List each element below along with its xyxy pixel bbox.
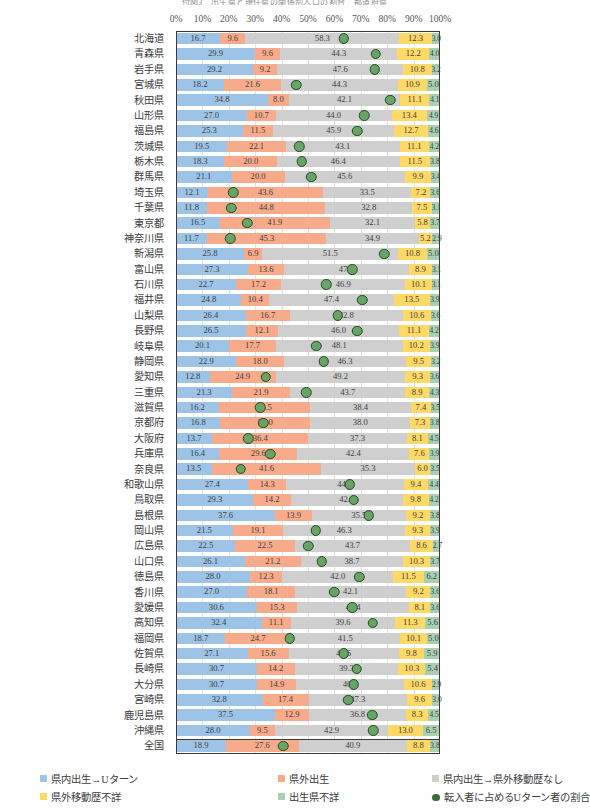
- legend-label: 県内出生→Uターン: [51, 774, 138, 785]
- x-axis-tick-10: 10%: [194, 14, 211, 24]
- row-label-山形県: 山形県: [0, 108, 170, 123]
- row-label-福岡県: 福岡県: [0, 631, 170, 646]
- x-axis-tick-100: 100%: [429, 14, 451, 24]
- row-label-岡山県: 岡山県: [0, 523, 170, 538]
- legend-item-1[interactable]: 県外出生: [278, 773, 329, 786]
- row-label-徳島県: 徳島県: [0, 569, 170, 584]
- legend-item-2[interactable]: 県内出生→県外移動歴なし: [432, 773, 563, 786]
- row-label-秋田県: 秋田県: [0, 93, 170, 108]
- row-label-宮城県: 宮城県: [0, 77, 170, 92]
- legend-square-swatch-icon: [40, 793, 47, 800]
- row-label-富山県: 富山県: [0, 262, 170, 277]
- row-label-福井県: 福井県: [0, 292, 170, 307]
- x-axis-tick-labels: 0%10%20%30%40%50%60%70%80%90%100%: [0, 14, 569, 28]
- row-label-石川県: 石川県: [0, 277, 170, 292]
- legend-item-0[interactable]: 県内出生→Uターン: [40, 773, 138, 786]
- legend-label: 県外移動歴不詳: [51, 792, 121, 803]
- legend-square-swatch-icon: [278, 775, 285, 782]
- legend-item-3[interactable]: 県外移動歴不詳: [40, 791, 121, 804]
- row-label-和歌山県: 和歌山県: [0, 477, 170, 492]
- row-label-北海道: 北海道: [0, 31, 170, 46]
- x-axis-tick-50: 50%: [299, 14, 316, 24]
- x-axis-tick-60: 60%: [326, 14, 343, 24]
- x-axis-tick-30: 30%: [246, 14, 263, 24]
- row-label-大阪府: 大阪府: [0, 431, 170, 446]
- row-label-千葉県: 千葉県: [0, 200, 170, 215]
- row-label-埼玉県: 埼玉県: [0, 185, 170, 200]
- row-label-栃木県: 栃木県: [0, 154, 170, 169]
- row-label-愛知県: 愛知県: [0, 369, 170, 384]
- legend-label: 県外出生: [289, 774, 329, 785]
- row-label-高知県: 高知県: [0, 615, 170, 630]
- x-axis-tick-90: 90%: [405, 14, 422, 24]
- row-label-福島県: 福島県: [0, 123, 170, 138]
- row-label-山口県: 山口県: [0, 554, 170, 569]
- plot-area-border: [176, 31, 440, 754]
- row-label-宮崎県: 宮崎県: [0, 692, 170, 707]
- chart-legend: 県内出生→Uターン県外出生県内出生→県外移動歴なし県外移動歴不詳出生県不詳転入者…: [0, 771, 569, 809]
- row-label-佐賀県: 佐賀県: [0, 646, 170, 661]
- legend-circle-marker-icon: [432, 794, 440, 802]
- row-label-青森県: 青森県: [0, 46, 170, 61]
- legend-label: 出生県不詳: [289, 792, 339, 803]
- row-label-静岡県: 静岡県: [0, 354, 170, 369]
- x-axis-tick-80: 80%: [378, 14, 395, 24]
- legend-square-swatch-icon: [40, 775, 47, 782]
- row-label-愛媛県: 愛媛県: [0, 600, 170, 615]
- page-title: 付図3 出生県と現住県の関係別人口の割合 都道府県: [0, 0, 569, 5]
- row-label-岐阜県: 岐阜県: [0, 339, 170, 354]
- legend-square-swatch-icon: [432, 775, 439, 782]
- row-label-岩手県: 岩手県: [0, 62, 170, 77]
- row-label-大分県: 大分県: [0, 677, 170, 692]
- row-label-長野県: 長野県: [0, 323, 170, 338]
- legend-item-5[interactable]: 転入者に占めるUターン者の割合: [432, 791, 590, 804]
- row-label-山梨県: 山梨県: [0, 308, 170, 323]
- row-label-沖縄県: 沖縄県: [0, 723, 170, 738]
- legend-label: 転入者に占めるUターン者の割合: [444, 792, 590, 803]
- row-label-全国: 全国: [0, 738, 170, 753]
- row-label-京都府: 京都府: [0, 415, 170, 430]
- row-label-兵庫県: 兵庫県: [0, 446, 170, 461]
- row-label-鹿児島県: 鹿児島県: [0, 708, 170, 723]
- x-axis-tick-40: 40%: [273, 14, 290, 24]
- row-label-広島県: 広島県: [0, 538, 170, 553]
- row-label-新潟県: 新潟県: [0, 246, 170, 261]
- row-label-島根県: 島根県: [0, 508, 170, 523]
- x-axis-tick-0: 0%: [170, 14, 183, 24]
- row-label-滋賀県: 滋賀県: [0, 400, 170, 415]
- row-label-東京都: 東京都: [0, 216, 170, 231]
- legend-square-swatch-icon: [278, 793, 285, 800]
- row-label-茨城県: 茨城県: [0, 139, 170, 154]
- legend-label: 県内出生→県外移動歴なし: [443, 774, 563, 785]
- row-label-三重県: 三重県: [0, 385, 170, 400]
- row-label-神奈川県: 神奈川県: [0, 231, 170, 246]
- x-axis-tick-20: 20%: [220, 14, 237, 24]
- row-label-香川県: 香川県: [0, 585, 170, 600]
- row-label-長崎県: 長崎県: [0, 661, 170, 676]
- x-axis-tick-70: 70%: [352, 14, 369, 24]
- national-total-separator: [176, 739, 440, 740]
- row-label-奈良県: 奈良県: [0, 462, 170, 477]
- legend-item-4[interactable]: 出生県不詳: [278, 791, 339, 804]
- row-label-鳥取県: 鳥取県: [0, 492, 170, 507]
- row-label-群馬県: 群馬県: [0, 169, 170, 184]
